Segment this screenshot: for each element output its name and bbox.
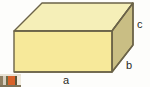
partial-image-fragment (0, 74, 21, 87)
fragment-bottom-edge (0, 85, 21, 87)
edge-label-a: a (63, 75, 69, 86)
fragment-top-edge (0, 74, 21, 76)
rectangular-box-figure: a b c (0, 0, 150, 87)
front-face (14, 31, 112, 72)
edge-label-c: c (137, 19, 143, 30)
edge-label-b: b (126, 60, 132, 71)
box-illustration (0, 0, 150, 87)
